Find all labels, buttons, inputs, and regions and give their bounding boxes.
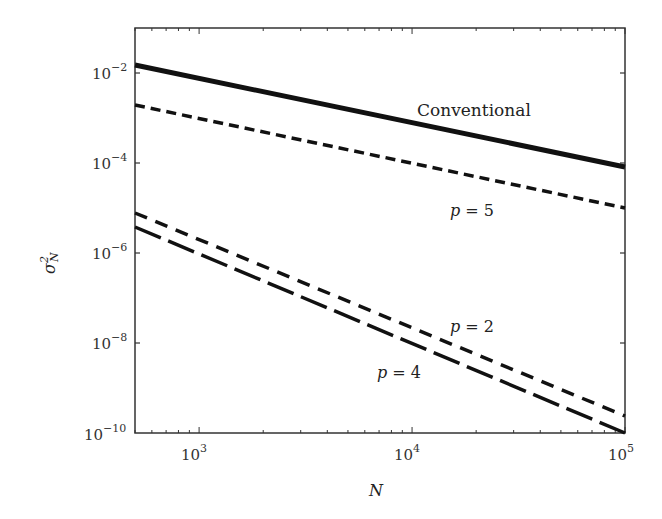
y-tick-label: 10−4 [92, 151, 127, 173]
y-axis-label: σ2N [38, 252, 61, 274]
annotation-p5: p = 5 [450, 201, 494, 220]
annotation-conventional: Conventional [417, 100, 531, 120]
x-tick-label: 104 [394, 442, 420, 464]
x-tick-label: 105 [608, 442, 634, 464]
annotation-p2: p = 2 [450, 317, 494, 336]
y-tick-labels: 10−2 10−4 10−6 10−8 10−10 [84, 61, 127, 444]
x-tick-label: 103 [181, 442, 207, 464]
y-tick-label: 10−10 [84, 422, 126, 444]
svg-text:σ2N: σ2N [38, 252, 61, 274]
y-tick-label: 10−8 [92, 331, 127, 353]
x-axis-label: N [368, 481, 384, 500]
annotation-p4: p = 4 [377, 363, 421, 382]
series-p2 [135, 213, 625, 416]
y-tick-label: 10−6 [92, 241, 127, 263]
series-p4 [135, 227, 625, 433]
chart: 10−2 10−4 10−6 10−8 10−10 103 104 105 N … [0, 0, 662, 519]
series-conventional [135, 65, 625, 167]
series-p5 [135, 105, 625, 208]
x-tick-labels: 103 104 105 [181, 442, 634, 464]
y-tick-label: 10−2 [92, 61, 127, 83]
